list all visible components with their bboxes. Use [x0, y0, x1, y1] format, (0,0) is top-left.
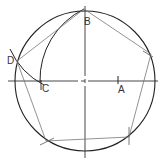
pentagon-construction-diagram: B A C D	[0, 0, 162, 161]
arc-b-to-c	[40, 9, 84, 82]
diagram-canvas: B A C D	[0, 0, 162, 161]
label-c: C	[42, 83, 49, 94]
construction-tick-p4	[40, 138, 54, 145]
label-a: A	[118, 84, 125, 95]
label-d: D	[7, 55, 14, 66]
label-b: B	[84, 16, 91, 27]
